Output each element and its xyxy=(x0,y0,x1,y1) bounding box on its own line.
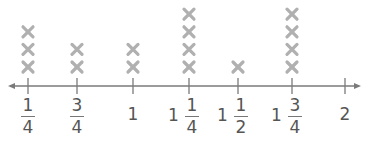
x-mark-icon xyxy=(287,9,297,19)
tick-label: 2 xyxy=(335,106,355,123)
numerator: 1 xyxy=(21,97,36,117)
numerator: 3 xyxy=(288,97,303,117)
x-mark-icon xyxy=(23,44,33,54)
denominator: 4 xyxy=(72,117,83,136)
x-marks xyxy=(23,9,297,72)
x-mark-icon xyxy=(184,44,194,54)
x-mark-icon xyxy=(72,62,82,72)
denominator: 4 xyxy=(290,117,301,136)
tick-label-fraction: 34 xyxy=(284,97,306,136)
x-mark-icon xyxy=(128,62,138,72)
x-mark-icon xyxy=(184,27,194,37)
denominator: 4 xyxy=(187,117,198,136)
numerator: 1 xyxy=(185,97,200,117)
x-mark-icon xyxy=(184,9,194,19)
x-mark-icon xyxy=(287,44,297,54)
number-line-axis xyxy=(8,78,361,94)
x-mark-icon xyxy=(128,44,138,54)
denominator: 4 xyxy=(23,117,34,136)
x-mark-icon xyxy=(72,44,82,54)
x-mark-icon xyxy=(233,62,243,72)
right-arrow-icon xyxy=(354,83,361,89)
x-mark-icon xyxy=(184,62,194,72)
numerator: 3 xyxy=(70,97,85,117)
tick-label-whole: 1 xyxy=(271,105,282,125)
denominator: 2 xyxy=(236,117,247,136)
x-mark-icon xyxy=(287,62,297,72)
tick-label: 1 xyxy=(123,106,143,123)
tick-label-whole: 1 xyxy=(217,105,228,125)
x-mark-icon xyxy=(287,27,297,37)
numerator: 1 xyxy=(234,97,249,117)
x-mark-icon xyxy=(23,27,33,37)
tick-label-fraction: 14 xyxy=(181,97,203,136)
x-mark-icon xyxy=(23,62,33,72)
tick-label-fraction: 14 xyxy=(17,97,39,136)
tick-label-fraction: 12 xyxy=(230,97,252,136)
tick-label-fraction: 34 xyxy=(66,97,88,136)
left-arrow-icon xyxy=(8,83,15,89)
tick-label-whole: 1 xyxy=(168,105,179,125)
